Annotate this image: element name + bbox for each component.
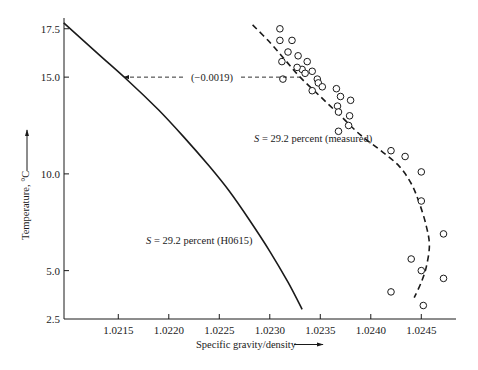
- data-point: [333, 85, 340, 92]
- y-axis-title: Temperature, °C: [20, 130, 31, 240]
- data-point: [302, 70, 309, 77]
- x-axis-title-text: Specific gravity/density: [196, 339, 297, 350]
- data-point: [388, 289, 395, 296]
- model-curve-h0615: [64, 23, 302, 309]
- data-point: [335, 109, 342, 116]
- offset-annotation-text: (−0.0019): [191, 72, 233, 84]
- measured-curve-dashed: [253, 25, 430, 298]
- data-point: [319, 84, 326, 91]
- y-tick-label: 17.5: [41, 23, 61, 35]
- data-point: [347, 97, 354, 104]
- measured-data-points: [277, 26, 447, 309]
- x-tick-label: 1.0220: [154, 324, 185, 336]
- data-point: [309, 68, 316, 75]
- chart: 2.55.010.015.017.5 1.02151.02201.02251.0…: [0, 0, 478, 370]
- data-point: [285, 49, 292, 56]
- data-point: [337, 93, 344, 100]
- y-axis-title-text: Temperature, °C: [20, 171, 31, 240]
- measured-curve-label: S = 29.2 percent (measured): [254, 133, 373, 145]
- measured-label-text: = 29.2 percent (measured): [259, 133, 372, 145]
- data-point: [388, 147, 395, 154]
- y-ticks: 2.55.010.015.017.5: [41, 23, 69, 325]
- data-point: [279, 58, 286, 65]
- x-tick-label: 1.0240: [356, 324, 387, 336]
- x-tick-label: 1.0245: [406, 324, 437, 336]
- data-point: [418, 267, 425, 274]
- data-point: [304, 58, 311, 65]
- x-tick-label: 1.0230: [255, 324, 286, 336]
- data-point: [294, 64, 301, 71]
- data-point: [289, 37, 296, 44]
- data-point: [418, 169, 425, 176]
- y-tick-label: 15.0: [41, 71, 61, 83]
- data-point: [277, 26, 284, 33]
- data-point: [346, 113, 353, 120]
- data-point: [440, 231, 447, 238]
- y-tick-label: 10.0: [41, 168, 61, 180]
- data-point: [309, 87, 316, 94]
- offset-annotation: (−0.0019): [124, 72, 300, 84]
- data-point: [420, 302, 427, 309]
- data-point: [295, 53, 302, 60]
- data-point: [277, 37, 284, 44]
- x-tick-label: 1.0215: [103, 324, 134, 336]
- data-point: [408, 256, 415, 263]
- data-point: [402, 153, 409, 160]
- x-ticks: 1.02151.02201.02251.02301.02351.02401.02…: [103, 314, 437, 336]
- model-curve-label: S = 29.2 percent (H0615): [146, 235, 253, 247]
- axes: [64, 18, 456, 319]
- y-tick-label: 2.5: [46, 313, 60, 325]
- y-tick-label: 5.0: [46, 265, 60, 277]
- data-point: [440, 275, 447, 282]
- data-point: [418, 198, 425, 205]
- model-label-text: = 29.2 percent (H0615): [151, 235, 253, 247]
- x-tick-label: 1.0225: [204, 324, 235, 336]
- data-point: [345, 122, 352, 129]
- x-axis-title: Specific gravity/density: [196, 339, 323, 350]
- x-tick-label: 1.0235: [305, 324, 336, 336]
